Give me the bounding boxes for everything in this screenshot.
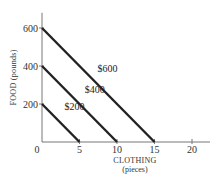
- axes: [42, 13, 210, 142]
- series-labels: $200$400$600: [65, 63, 118, 112]
- budget-line-chart: 05101520 200400600 $200$400$600 FOOD (po…: [0, 0, 223, 188]
- x-axis-title: CLOTHING: [113, 156, 156, 165]
- x-tick-label: 15: [150, 144, 160, 155]
- y-tick-label: 400: [23, 61, 38, 72]
- x-tick-label: 20: [187, 144, 197, 155]
- x-tick-label: 5: [77, 144, 82, 155]
- budget-label-200: $200: [65, 101, 85, 112]
- budget-label-600: $600: [98, 63, 118, 74]
- x-tick-label: 10: [112, 144, 122, 155]
- budget-label-400: $400: [85, 84, 105, 95]
- x-axis-subtitle: (pieces): [122, 165, 148, 174]
- y-tick-label: 200: [23, 99, 38, 110]
- x-tick-label: 0: [35, 144, 40, 155]
- y-axis-title: FOOD (pounds): [9, 49, 18, 105]
- y-ticks: 200400600: [23, 23, 44, 110]
- y-tick-label: 600: [23, 23, 38, 34]
